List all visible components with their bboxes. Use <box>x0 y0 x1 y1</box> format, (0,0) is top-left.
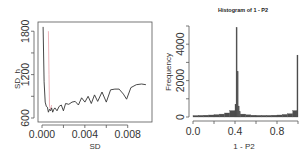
histogram-bar <box>225 113 230 117</box>
left-plot-box <box>38 22 152 122</box>
histogram-bar <box>246 115 251 117</box>
histogram-bar <box>219 114 224 117</box>
histogram-bar <box>238 106 239 117</box>
histogram-bar <box>237 72 238 118</box>
histogram-bar <box>297 55 298 117</box>
histogram-bar <box>256 115 261 117</box>
left-series-line <box>43 27 146 112</box>
histogram-bar <box>230 111 235 117</box>
histogram-bar <box>267 115 272 117</box>
left-x-tick-label: 0.008 <box>115 128 141 140</box>
left-x-axis-title: SD <box>89 142 100 151</box>
histogram-bar <box>288 114 293 117</box>
chart-canvas: 60012001800 0.0000.0040.008 SD SD_h Hist… <box>0 0 304 155</box>
histogram-bar <box>209 115 214 117</box>
right-y-tick-label: 0 <box>174 114 186 120</box>
right-plot: Histogram of 1 - P2 020004000 0.00.40.8 … <box>164 7 298 151</box>
histogram-bars <box>193 28 298 117</box>
right-y-tick-label: 2000 <box>174 69 186 93</box>
histogram-bar <box>214 115 219 117</box>
histogram-bar <box>239 112 240 117</box>
left-x-tick-label: 0.004 <box>72 128 98 140</box>
histogram-bar <box>277 115 282 117</box>
left-y-tick-label: 1800 <box>19 19 31 43</box>
right-y-axis-title: Frequency <box>164 53 173 91</box>
right-x-tick-label: 0.4 <box>228 125 243 137</box>
right-x-tick-label: 0.0 <box>186 125 201 137</box>
right-x-axis: 0.00.40.8 <box>186 121 298 137</box>
histogram-bar <box>272 115 277 117</box>
histogram-bar <box>293 111 297 117</box>
left-reference-line <box>48 31 51 109</box>
histogram-bar <box>261 115 266 117</box>
histogram-bar <box>236 28 237 117</box>
histogram-bar <box>240 114 245 117</box>
left-x-tick-label: 0.000 <box>29 128 55 140</box>
histogram-bar <box>204 115 209 117</box>
right-x-axis-title: 1 - P2 <box>233 142 255 151</box>
left-plot: 60012001800 0.0000.0040.008 SD SD_h <box>13 19 152 151</box>
histogram-bar <box>198 115 203 117</box>
histogram-bar <box>235 104 236 117</box>
left-y-tick-label: 600 <box>19 109 31 127</box>
right-y-axis: 020004000 <box>174 26 189 120</box>
histogram-title: Histogram of 1 - P2 <box>218 7 268 13</box>
histogram-bar <box>193 116 198 117</box>
right-x-tick-label: 0.8 <box>270 125 285 137</box>
histogram-bar <box>282 114 287 117</box>
right-y-tick-label: 4000 <box>174 32 186 56</box>
left-x-axis: 0.0000.0040.008 <box>29 125 141 140</box>
histogram-bar <box>251 115 256 117</box>
left-y-axis-title: SD_h <box>13 69 22 89</box>
